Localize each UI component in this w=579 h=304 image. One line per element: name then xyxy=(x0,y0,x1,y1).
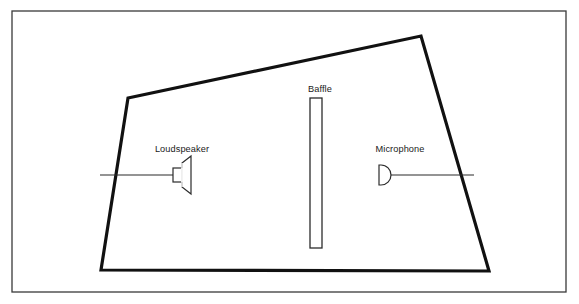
baffle-label: Baffle xyxy=(308,84,332,94)
loudspeaker-cone xyxy=(182,156,191,194)
loudspeaker-body xyxy=(173,168,182,182)
diagram-canvas: Baffle Loudspeaker Microphone xyxy=(0,0,579,304)
acoustic-room-diagram: Baffle Loudspeaker Microphone xyxy=(0,0,579,304)
loudspeaker-label: Loudspeaker xyxy=(155,144,209,154)
diagram-background xyxy=(0,0,579,304)
microphone-label: Microphone xyxy=(375,144,424,154)
baffle-panel xyxy=(310,98,322,248)
